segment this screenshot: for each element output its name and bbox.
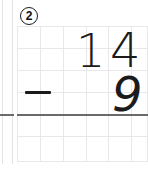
grid-line-vertical — [2, 0, 3, 164]
problem-number-badge: 2 — [20, 7, 38, 25]
grid-line-vertical — [147, 26, 148, 162]
adjacent-answer-rule — [0, 114, 14, 116]
adjacent-problem-grid-sliver — [0, 0, 14, 194]
grid-line-vertical — [40, 26, 41, 162]
minus-operator-icon — [25, 91, 51, 94]
grid-line-horizontal — [17, 161, 148, 162]
worksheet-problem-tile: 2 1 4 9 — [0, 0, 148, 194]
grid-line-vertical — [12, 0, 13, 164]
grid-line-horizontal — [17, 136, 148, 137]
grid-line-vertical — [63, 26, 64, 162]
grid-line-vertical — [17, 26, 18, 162]
subtrahend-ones-digit: 9 — [112, 70, 143, 118]
grid-line-vertical — [108, 26, 109, 162]
minuend-tens-digit: 1 — [76, 28, 105, 74]
